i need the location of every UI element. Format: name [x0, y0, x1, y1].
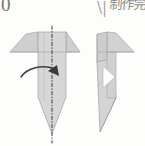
diagram-page: 0 \| 制作完 [0, 0, 145, 146]
left-figure-right-flap-wide [66, 32, 80, 52]
left-figure-left-flap [10, 32, 38, 52]
right-figure-body-upper [97, 32, 107, 62]
right-figure-right-flap [107, 32, 134, 52]
right-figure [97, 32, 134, 132]
left-figure [10, 26, 80, 143]
origami-diagram [0, 0, 145, 146]
